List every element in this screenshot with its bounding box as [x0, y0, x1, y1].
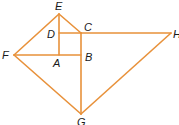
label-c: C [84, 21, 92, 33]
segment-fg [14, 55, 81, 114]
label-e: E [55, 0, 63, 12]
geometry-diagram: E C D H F A B G [0, 0, 179, 125]
label-h: H [173, 28, 179, 40]
segment-ec [59, 14, 81, 33]
segments [14, 14, 171, 114]
label-b: B [85, 51, 92, 63]
label-d: D [47, 28, 55, 40]
segment-gh [81, 33, 171, 114]
label-a: A [52, 57, 60, 69]
label-g: G [77, 116, 86, 125]
label-f: F [2, 49, 10, 61]
